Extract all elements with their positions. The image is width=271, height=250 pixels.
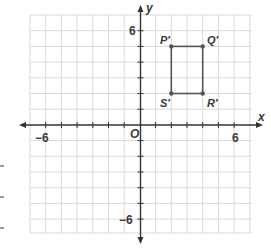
tick-label-x-pos: 6 xyxy=(232,131,239,145)
margin-dashes xyxy=(0,166,4,228)
point-r xyxy=(201,91,205,95)
point-s xyxy=(169,91,173,95)
x-axis-label: x xyxy=(257,110,266,124)
tick-label-y-pos: 6 xyxy=(129,24,136,38)
point-label-r: R′ xyxy=(207,97,219,109)
coordinate-plane: x y O −6 6 6 −6 P′ Q′ R′ S′ xyxy=(0,0,271,250)
tick-label-y-neg: −6 xyxy=(119,213,133,227)
tick-label-x-neg: −6 xyxy=(35,131,49,145)
point-label-p: P′ xyxy=(160,34,171,46)
point-label-s: S′ xyxy=(160,97,171,109)
arrow-down-icon xyxy=(138,237,144,244)
arrow-up-icon xyxy=(138,5,144,12)
point-q xyxy=(201,44,205,48)
labels: x y O −6 6 6 −6 P′ Q′ R′ S′ xyxy=(35,1,266,227)
origin-label: O xyxy=(130,127,140,141)
y-axis-label: y xyxy=(145,1,154,15)
arrow-left-icon xyxy=(19,122,26,128)
point-label-q: Q′ xyxy=(207,34,220,46)
